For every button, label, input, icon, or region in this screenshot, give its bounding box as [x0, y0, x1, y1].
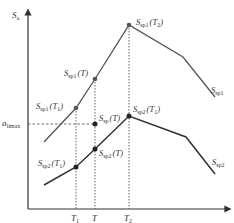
label-ssp2-t1: Ssp2(T1) — [38, 158, 65, 169]
point-ssp-t — [93, 122, 98, 127]
curve-ssp2 — [44, 116, 215, 185]
label-ssp1-t: Ssp1(T) — [64, 68, 88, 79]
tick-t2: T2 — [124, 213, 132, 223]
curve-label-ssp1: Ssp1 — [211, 85, 224, 96]
diagram-canvas: Sa alimax T1 T T2 Ssp1(T2) Ssp1(T) Ssp1(… — [0, 0, 234, 223]
curve-ssp1 — [44, 25, 215, 142]
point-ssp1-t2 — [127, 23, 132, 28]
threshold-label: alimax — [2, 118, 20, 129]
point-ssp1-t1 — [74, 106, 79, 111]
point-ssp2-t — [93, 147, 98, 152]
point-ssp1-t — [93, 77, 98, 82]
label-ssp1-t1: Ssp1(T1) — [36, 101, 63, 112]
label-ssp-t: Ssp(T) — [99, 113, 120, 124]
tick-t1: T1 — [71, 213, 79, 223]
point-ssp2-t1 — [74, 165, 79, 170]
label-ssp2-t1-upper: Ssp2(T1) — [133, 104, 160, 115]
curve-label-ssp2: Ssp2 — [212, 157, 225, 168]
tick-t: T — [92, 213, 98, 223]
label-ssp1-t2: Ssp1(T2) — [136, 17, 163, 28]
point-ssp2-t2 — [127, 114, 132, 119]
label-ssp2-t: Ssp2(T) — [99, 148, 123, 159]
y-axis-label: Sa — [12, 10, 20, 21]
